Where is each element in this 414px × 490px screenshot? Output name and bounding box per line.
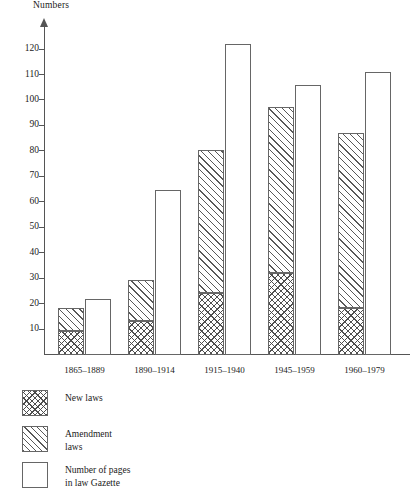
x-axis-label: 1890–1914 [118,365,191,375]
bar-pages-in-law-gazette [365,72,391,355]
legend-label: Amendment laws [65,426,112,453]
bar-segment-new-laws [338,308,364,355]
x-axis-label: 1865–1889 [48,365,121,375]
bar-segment-amendment-laws [268,107,294,273]
legend-label: Number of pages in law Gazette [65,462,130,489]
bar-segment-new-laws [128,321,154,355]
y-tick-70: 70 [44,176,50,177]
y-tick-label: 80 [30,146,40,156]
y-tick-label: 10 [30,324,40,334]
y-tick-label: 20 [30,299,40,309]
legend-swatch-new-laws-icon [22,390,48,416]
stacked-bar [338,134,364,356]
y-tick-label: 60 [30,197,40,207]
y-tick-100: 100 [44,99,50,100]
bar-segment-amendment-laws [198,150,224,293]
y-tick-label: 90 [30,121,40,131]
bar-group: 1890–1914 [128,24,181,355]
plot-area: 120 110 100 90 80 70 60 50 [44,18,410,355]
y-tick-label: 100 [25,95,39,105]
bar-pages-in-law-gazette [85,299,111,355]
legend-label: New laws [65,390,103,405]
bar-group: 1915–1940 [198,24,251,355]
bar-segment-amendment-laws [338,133,364,309]
bar-group: 1945–1959 [268,24,321,355]
x-axis-label: 1945–1959 [258,365,331,375]
stacked-bar [268,108,294,355]
bar-group: 1865–1889 [58,24,111,355]
legend-swatch-pages-icon [22,462,48,488]
y-tick-label: 110 [25,70,39,80]
x-axis-label: 1915–1940 [188,365,261,375]
y-tick-label: 40 [30,248,40,258]
bar-pages-in-law-gazette [295,85,321,355]
y-axis-title: Numbers [33,0,69,10]
y-tick-label: 70 [30,171,40,181]
legend-swatch-amendment-laws-icon [22,426,48,452]
stacked-bar [198,151,224,355]
legend-item-amendment-laws: Amendment laws [22,426,112,453]
bar-segment-new-laws [58,331,84,355]
y-tick-50: 50 [44,227,50,228]
bar-segment-new-laws [268,273,294,356]
bar-group: 1960–1979 [338,24,391,355]
bar-segment-amendment-laws [58,308,84,331]
bar-segment-new-laws [198,293,224,355]
y-tick-120: 120 [44,49,50,50]
y-tick-80: 80 [44,150,50,151]
y-tick-30: 30 [44,278,50,279]
y-tick-label: 50 [30,222,40,232]
y-tick-110: 110 [44,74,50,75]
y-tick-label: 120 [25,44,39,54]
bar-segment-amendment-laws [128,280,154,321]
x-axis-label: 1960–1979 [328,365,401,375]
stacked-bar [128,281,154,355]
y-tick-60: 60 [44,201,50,202]
y-tick-10: 10 [44,329,50,330]
y-tick-20: 20 [44,303,50,304]
y-tick-label: 30 [30,273,40,283]
bar-pages-in-law-gazette [225,44,251,355]
y-axis-arrow-icon [40,18,48,27]
legend-item-pages-in-law-gazette: Number of pages in law Gazette [22,462,130,489]
bar-chart: Numbers 120 110 100 90 80 70 [0,0,414,490]
legend-item-new-laws: New laws [22,390,103,416]
bar-pages-in-law-gazette [155,190,181,356]
stacked-bar [58,309,84,355]
y-tick-90: 90 [44,125,50,126]
y-tick-40: 40 [44,252,50,253]
